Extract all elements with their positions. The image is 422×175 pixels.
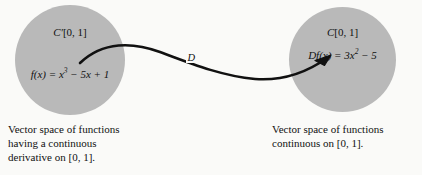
domain-function-rest: − 5x + 1 [68,68,110,80]
arrow-label-D: D [186,52,197,63]
codomain-function-rest: − 5 [358,49,376,61]
domain-function-lead: f(x) = x [31,68,64,80]
codomain-space-interval: [0, 1] [334,26,358,38]
domain-function-expression: f(x) = x3 − 5x + 1 [0,66,150,80]
linear-transformation-diagram: C′[0, 1] f(x) = x3 − 5x + 1 C[0, 1] Df(x… [0,0,422,175]
codomain-caption: Vector space of functions continuous on … [272,122,422,150]
domain-space-base: C [53,26,60,38]
domain-space-label: C′[0, 1] [15,26,125,38]
codomain-space-label: C[0, 1] [289,26,396,38]
domain-space-interval: [0, 1] [63,26,87,38]
domain-caption: Vector space of functions having a conti… [8,122,188,165]
codomain-function-lead: Df(x) = 3x [308,49,355,61]
codomain-function-expression: Df(x) = 3x2 − 5 [272,47,413,61]
